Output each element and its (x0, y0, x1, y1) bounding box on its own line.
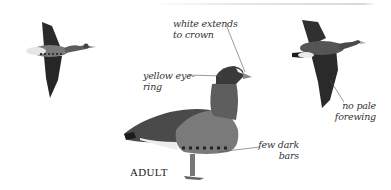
flying-goose-right (292, 20, 366, 108)
annotation-bars: few dark bars (255, 139, 299, 161)
annotation-forewing: no pale forewing (334, 100, 376, 122)
annotation-crown-line1: white extends (173, 18, 238, 29)
annotation-forewing-line1: no pale (334, 100, 376, 111)
annotation-bars-line1: few dark (255, 139, 299, 150)
annotation-eye: yellow eye- ring (143, 70, 195, 92)
annotation-eye-line2: ring (143, 81, 195, 92)
annotation-forewing-line2: forewing (334, 111, 376, 122)
flying-goose-left (26, 22, 96, 98)
annotation-crown: white extends to crown (173, 18, 238, 40)
caption-adult: ADULT (130, 166, 168, 178)
annotation-bars-line2: bars (255, 150, 299, 161)
annotation-crown-line2: to crown (173, 29, 238, 40)
annotation-eye-line1: yellow eye- (143, 70, 195, 81)
